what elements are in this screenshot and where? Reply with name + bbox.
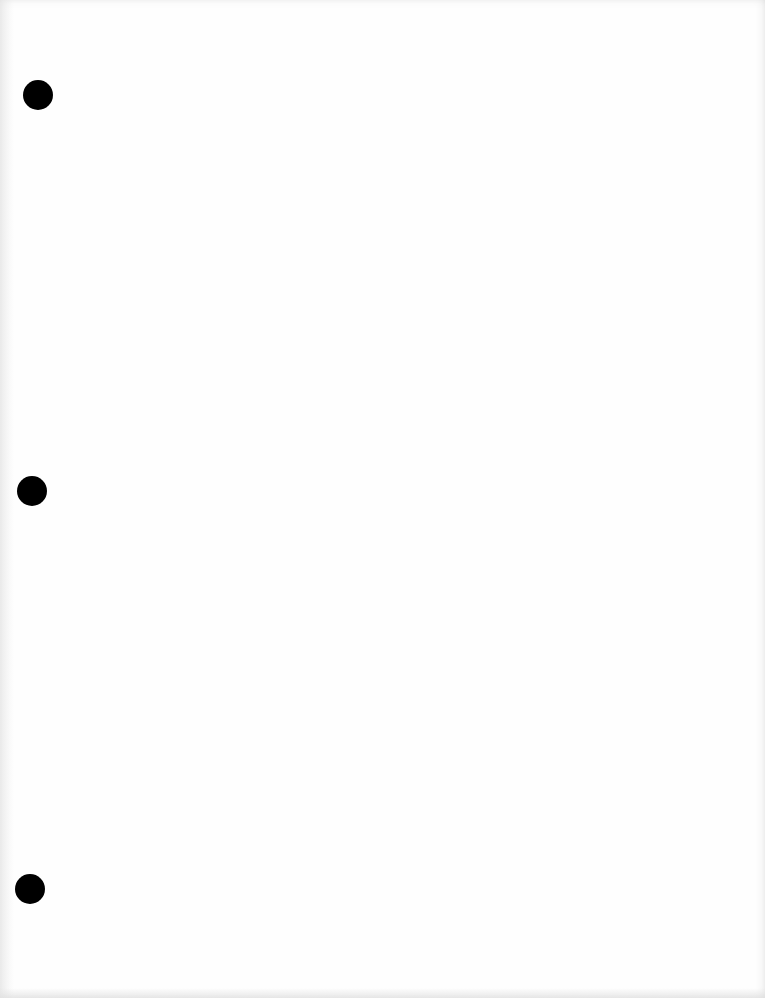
punch-hole-middle <box>17 476 47 506</box>
page-edge-shadow-left <box>0 0 14 998</box>
punch-hole-top <box>23 80 53 110</box>
blank-paper-sheet <box>0 0 765 998</box>
page-edge-shadow-bottom <box>0 988 765 998</box>
punch-hole-bottom <box>15 874 45 904</box>
